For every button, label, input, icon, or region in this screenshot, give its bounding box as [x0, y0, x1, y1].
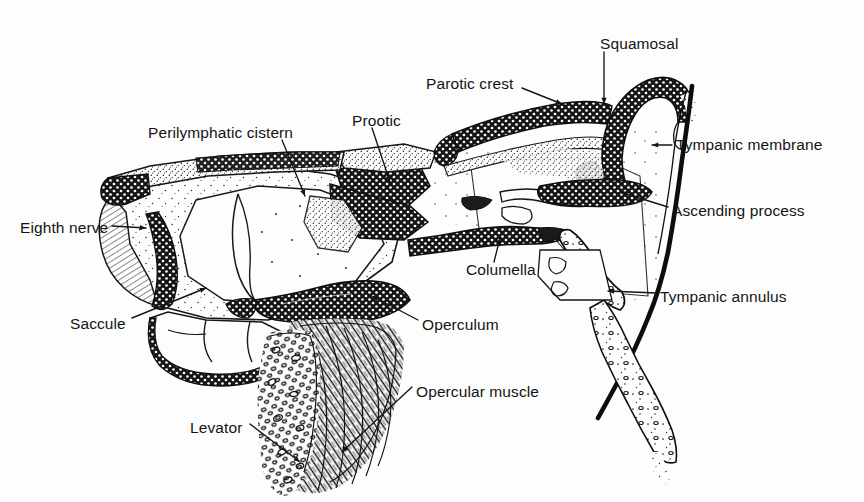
label-squamosal: Squamosal: [600, 36, 678, 52]
label-tympanic-annulus: Tympanic annulus: [660, 289, 787, 305]
label-saccule: Saccule: [70, 316, 126, 332]
label-operculum: Operculum: [422, 317, 499, 333]
label-parotic-crest: Parotic crest: [426, 76, 513, 92]
label-perilymphatic: Perilymphatic cistern: [148, 125, 293, 141]
label-levator: Levator: [190, 420, 242, 436]
label-ascending-process: Ascending process: [672, 203, 805, 219]
ascending-process-bone: [538, 180, 652, 207]
label-opercular-muscle: Opercular muscle: [416, 384, 539, 400]
label-tympanic-membrane: Tympanic membrane: [676, 137, 822, 153]
label-columella: Columella: [466, 262, 536, 278]
label-eighth-nerve: Eighth nerve: [20, 220, 108, 236]
anatomical-figure: SquamosalParotic crestPerilymphatic cist…: [0, 0, 864, 502]
label-prootic: Prootic: [352, 113, 401, 129]
